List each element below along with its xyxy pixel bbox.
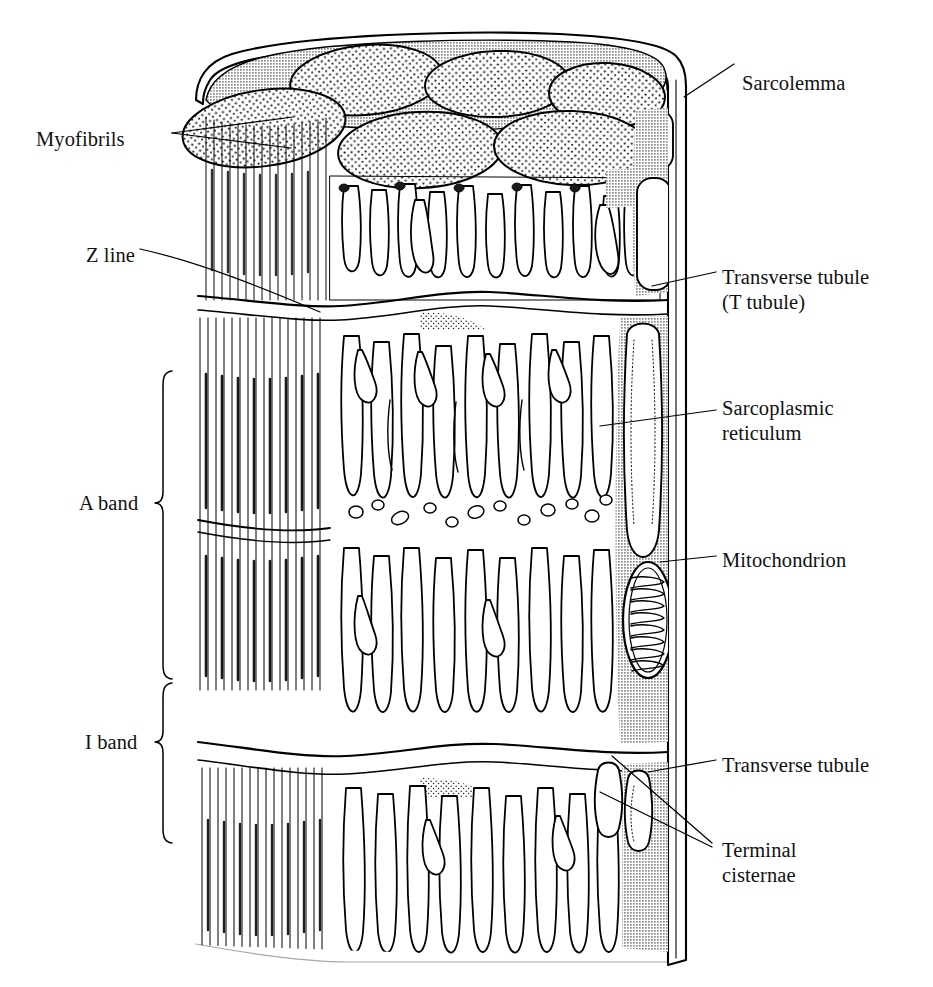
label-sarcoplasmic-reticulum-line2: reticulum bbox=[722, 421, 801, 446]
a-band-bracket bbox=[155, 371, 172, 679]
label-myofibrils: Myofibrils bbox=[36, 127, 125, 152]
label-transverse-tubule-line1: Transverse tubule bbox=[722, 265, 869, 290]
muscle-fiber-figure: Myofibrils Z line A band I band Sarcolem… bbox=[0, 0, 933, 987]
label-terminal-cisternae-line2: cisternae bbox=[722, 863, 796, 888]
label-z-line: Z line bbox=[86, 243, 135, 268]
sarcoplasmic-reticulum-lower bbox=[343, 786, 618, 953]
label-transverse-tubule-2: Transverse tubule bbox=[722, 753, 869, 778]
label-sarcolemma: Sarcolemma bbox=[742, 71, 845, 96]
label-a-band: A band bbox=[79, 491, 138, 516]
myofibril-striations-aband bbox=[198, 318, 330, 690]
label-transverse-tubule-line2: (T tubule) bbox=[722, 290, 805, 315]
band-brackets bbox=[155, 371, 172, 843]
cell-body bbox=[140, 33, 734, 965]
t-tubule-band-upper bbox=[198, 292, 668, 330]
myofibril-striations-lower bbox=[202, 768, 322, 960]
sarcoplasmic-reticulum-upper bbox=[342, 184, 642, 277]
label-mitochondrion: Mitochondrion bbox=[722, 548, 846, 573]
sarcoplasmic-reticulum-middle-lower bbox=[341, 548, 612, 712]
sr-longitudinal-right-middle bbox=[624, 324, 662, 558]
sarcolemma-leader bbox=[684, 64, 734, 97]
bottom-cut-edge bbox=[196, 944, 668, 962]
mitochondrion-main bbox=[623, 562, 673, 678]
label-sarcoplasmic-reticulum-line1: Sarcoplasmic bbox=[722, 396, 834, 421]
i-band-bracket bbox=[155, 683, 172, 843]
label-i-band: I band bbox=[85, 730, 137, 755]
sarcoplasmic-reticulum-middle-upper bbox=[341, 334, 612, 498]
sr-vesicles-center bbox=[349, 495, 612, 527]
label-terminal-cisternae-line1: Terminal bbox=[722, 838, 797, 863]
sr-longitudinal-right-upper bbox=[637, 178, 671, 290]
